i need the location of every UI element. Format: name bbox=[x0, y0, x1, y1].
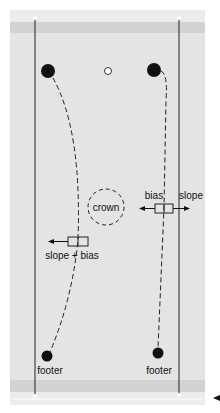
center-small-circle bbox=[105, 68, 112, 75]
left-top-marker bbox=[33, 16, 37, 20]
diagram: crown bias slope slope + bias footer foo… bbox=[0, 0, 220, 413]
crown-label: crown bbox=[93, 202, 120, 213]
right-footer-label: footer bbox=[146, 365, 172, 376]
pointer-arrow-icon bbox=[213, 395, 220, 401]
bottom-band bbox=[10, 380, 205, 392]
top-strip bbox=[10, 10, 205, 22]
top-band bbox=[10, 22, 205, 33]
right-bottom-marker bbox=[177, 393, 181, 397]
bias-label: bias bbox=[145, 190, 163, 201]
left-bottom-marker bbox=[33, 394, 37, 398]
left-top-dot bbox=[41, 64, 55, 78]
right-top-dot bbox=[147, 63, 161, 77]
left-footer-dot bbox=[42, 351, 53, 362]
right-top-marker bbox=[177, 16, 181, 20]
slope-label: slope bbox=[179, 190, 203, 201]
left-footer-label: footer bbox=[37, 365, 63, 376]
right-footer-dot bbox=[153, 348, 164, 359]
slope-bias-label: slope + bias bbox=[45, 250, 99, 261]
